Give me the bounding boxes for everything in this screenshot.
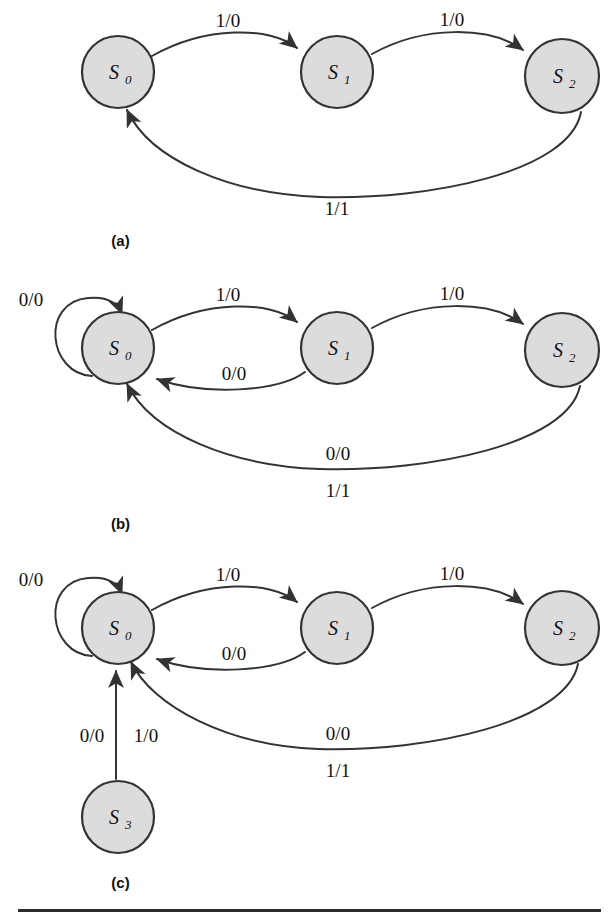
state-node-a-s0[interactable]: S 0 bbox=[82, 36, 154, 108]
state-subscript-b-s0: 0 bbox=[125, 348, 132, 363]
state-node-c-s3[interactable]: S 3 bbox=[82, 781, 154, 853]
edge-c-s1-s2-label: 1/0 bbox=[440, 563, 464, 584]
figure-state-diagrams: 1/0 1/0 1/1 S 0 S 1 S 2 (a) bbox=[0, 0, 615, 921]
state-label-c-s3: S bbox=[109, 806, 119, 828]
edge-a-s0-s1-label: 1/0 bbox=[216, 10, 240, 31]
edge-a-s1-s2-label: 1/0 bbox=[440, 9, 464, 30]
edge-a-s2-s0 bbox=[127, 110, 581, 197]
edge-a-s2-s0-label: 1/1 bbox=[325, 198, 349, 219]
edge-b-s2-s0 bbox=[127, 384, 580, 469]
state-label-c-s0: S bbox=[109, 617, 119, 639]
state-subscript-b-s2: 2 bbox=[569, 350, 576, 365]
panel-c: 0/0 1/0 0/0 1/0 0/0 1/1 0/0 1/0 S 0 S 1 bbox=[0, 556, 615, 876]
state-subscript-b-s1: 1 bbox=[344, 348, 351, 363]
state-node-b-s0[interactable]: S 0 bbox=[82, 312, 154, 384]
state-label-a-s0: S bbox=[109, 61, 119, 83]
edge-b-s1-s2-label: 1/0 bbox=[440, 283, 464, 304]
edge-b-s0-s1-label: 1/0 bbox=[216, 284, 240, 305]
panel-b: 0/0 1/0 0/0 1/0 0/0 1/1 S 0 S 1 S 2 bbox=[0, 276, 615, 516]
edge-c-s1-s2 bbox=[372, 586, 523, 608]
edge-c-s2-s0-label-1: 1/1 bbox=[326, 760, 350, 781]
edge-a-s1-s2 bbox=[372, 32, 523, 54]
edge-c-s0-s1-label: 1/0 bbox=[216, 564, 240, 585]
edge-c-s1-s0-label: 0/0 bbox=[222, 643, 246, 664]
edge-c-s0-self-label: 0/0 bbox=[19, 569, 43, 590]
edge-a-s0-s1 bbox=[152, 32, 297, 56]
caption-c-text: (c) bbox=[111, 874, 129, 891]
state-node-a-s2[interactable]: S 2 bbox=[525, 39, 599, 113]
state-node-b-s1[interactable]: S 1 bbox=[301, 312, 373, 384]
edge-c-s3-s0-label-1: 1/0 bbox=[134, 725, 158, 746]
edge-b-s0-self-label: 0/0 bbox=[19, 289, 43, 310]
caption-a-text: (a) bbox=[111, 232, 129, 249]
panel-a: 1/0 1/0 1/1 S 0 S 1 S 2 bbox=[0, 0, 615, 230]
state-subscript-a-s0: 0 bbox=[125, 72, 132, 87]
state-label-b-s2: S bbox=[553, 339, 563, 361]
caption-panel-a: (a) bbox=[0, 232, 615, 249]
caption-b-text: (b) bbox=[111, 515, 130, 532]
state-node-b-s2[interactable]: S 2 bbox=[525, 313, 599, 387]
state-node-c-s0[interactable]: S 0 bbox=[82, 592, 154, 664]
state-subscript-c-s1: 1 bbox=[344, 628, 351, 643]
state-subscript-c-s0: 0 bbox=[125, 628, 132, 643]
edge-b-s2-s0-label-0: 0/0 bbox=[326, 443, 350, 464]
edge-c-s0-s1 bbox=[152, 586, 297, 610]
edge-c-s3-s0-label-0: 0/0 bbox=[80, 725, 104, 746]
edge-b-s1-s0-label: 0/0 bbox=[222, 363, 246, 384]
state-label-c-s1: S bbox=[328, 617, 338, 639]
state-label-a-s2: S bbox=[553, 65, 563, 87]
edge-b-s2-s0-label-1: 1/1 bbox=[326, 480, 350, 501]
state-node-a-s1[interactable]: S 1 bbox=[301, 36, 373, 108]
state-label-b-s0: S bbox=[109, 337, 119, 359]
state-label-a-s1: S bbox=[328, 61, 338, 83]
state-subscript-a-s1: 1 bbox=[344, 72, 351, 87]
caption-panel-c: (c) bbox=[0, 874, 615, 891]
state-subscript-c-s2: 2 bbox=[569, 628, 576, 643]
caption-panel-b: (b) bbox=[0, 515, 615, 532]
state-subscript-a-s2: 2 bbox=[569, 76, 576, 91]
edge-b-s0-s1 bbox=[152, 306, 297, 330]
state-label-c-s2: S bbox=[553, 617, 563, 639]
figure-bottom-rule bbox=[18, 909, 601, 912]
edge-c-s2-s0-label-0: 0/0 bbox=[326, 723, 350, 744]
edge-c-s2-s0 bbox=[131, 662, 578, 749]
edge-b-s1-s2 bbox=[372, 306, 523, 328]
state-subscript-c-s3: 3 bbox=[124, 817, 132, 832]
state-node-c-s1[interactable]: S 1 bbox=[301, 592, 373, 664]
state-label-b-s1: S bbox=[328, 337, 338, 359]
state-node-c-s2[interactable]: S 2 bbox=[525, 591, 599, 665]
